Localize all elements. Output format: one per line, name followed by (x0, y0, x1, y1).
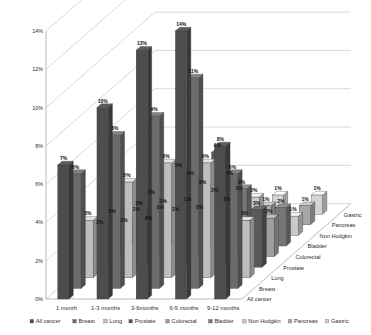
z-axis-category-5: Bladder (308, 243, 327, 249)
bar-value-label-6-0: 1% (133, 206, 141, 212)
legend-item-lung[interactable]: Lung (104, 318, 122, 324)
bar-value-label-5-2: 3% (199, 179, 207, 185)
bar-side (323, 191, 327, 214)
bar-side (108, 104, 112, 299)
x-axis-category-3: 6-9 months (169, 305, 198, 311)
legend-item-prostate[interactable]: Prostate (129, 318, 156, 324)
bar-side (250, 217, 254, 278)
bar-value-label-4-4: 2% (265, 208, 273, 214)
legend-item-colorectal[interactable]: Colorectal (166, 318, 197, 324)
y-axis-tick-6: 12% (32, 66, 43, 72)
bar-value-label-2-0: 3% (84, 210, 92, 216)
legend-item-gastric[interactable]: Gastric (325, 318, 349, 324)
bar-side (310, 202, 314, 225)
bar-value-label-2-1: 5% (123, 172, 131, 178)
bar-value-label-7-1: 1% (184, 196, 192, 202)
bar-side (147, 46, 151, 299)
bar-value-label-7-4: 1% (301, 196, 309, 202)
bar-side (298, 213, 302, 236)
bar-all-cancer-1[interactable] (97, 104, 113, 299)
legend-label: Prostate (135, 318, 156, 324)
bar-value-label-8-0: 0% (157, 204, 165, 210)
bar-value-label-1-0: 6% (72, 164, 80, 170)
z-axis-category-3: Prostate (283, 265, 304, 271)
bar-value-label-0-1: 10% (98, 98, 109, 104)
bar-value-label-3-3: 6% (214, 142, 222, 148)
bar-value-label-3-1: 3% (135, 200, 143, 206)
bar-value-label-1-3: 11% (188, 68, 198, 74)
bar-value-label-4-1: 3% (148, 189, 156, 195)
y-axis-tick-5: 10% (32, 105, 43, 111)
three-d-bar-chart: 0%2%4%6%8%10%12%14%0%0%1%1%1%0%1%1%1%1%1… (0, 0, 371, 335)
bar-value-label-7-3: 1% (262, 196, 270, 202)
legend: All cancerBreastLungProstateColorectalBl… (30, 318, 349, 324)
legend-item-all-cancer[interactable]: All cancer (30, 318, 60, 324)
bar-value-label-2-4: 3% (241, 210, 249, 216)
bar-value-label-0-3: 14% (176, 21, 187, 27)
legend-label: All cancer (36, 318, 61, 324)
legend-swatch (325, 319, 329, 323)
bar-value-label-8-2: 1% (235, 185, 243, 191)
legend-label: Lung (110, 318, 122, 324)
bar-side (81, 170, 85, 289)
y-axis-tick-1: 2% (35, 258, 43, 264)
z-axis-category-2: Lung (271, 275, 283, 281)
z-axis-category-1: Breast (259, 286, 276, 292)
bar-value-label-3-2: 5% (175, 162, 183, 168)
bar-value-label-8-1: 0% (196, 204, 204, 210)
bar-value-label-8-3: 1% (274, 185, 282, 191)
bar-side (69, 161, 73, 299)
bar-side (120, 132, 124, 289)
bar-face (215, 146, 226, 299)
bar-all-cancer-4[interactable] (215, 142, 231, 299)
z-axis-category-8: Gastric (344, 212, 362, 218)
bar-value-label-4-2: 4% (187, 170, 195, 176)
legend-swatch (209, 319, 213, 323)
bar-value-label-5-0: 1% (120, 217, 128, 223)
bar-value-label-1-1: 8% (111, 125, 119, 131)
bar-value-label-1-4: 6% (229, 164, 237, 170)
legend-label: Pancreas (294, 318, 318, 324)
bar-value-label-0-0: 7% (60, 155, 68, 161)
bar-value-label-5-3: 3% (238, 179, 246, 185)
y-axis-tick-0: 0% (35, 296, 43, 302)
legend-swatch (104, 319, 108, 323)
bar-value-label-7-2: 1% (223, 196, 231, 202)
legend-label: Breast (79, 318, 96, 324)
x-axis-category-1: 1-3 months (91, 305, 120, 311)
legend-item-non-hodgkin[interactable]: Non Hodgkin (243, 318, 281, 324)
bar-face (97, 108, 108, 299)
bar-side (274, 215, 278, 257)
legend-item-pancreas[interactable]: Pancreas (288, 318, 318, 324)
bar-value-label-6-3: 2% (250, 187, 258, 193)
x-axis-category-2: 3-6months (131, 305, 158, 311)
bar-value-label-1-2: 9% (150, 106, 158, 112)
bar-value-label-6-1: 1% (172, 206, 180, 212)
legend-swatch (166, 319, 170, 323)
bar-value-label-0-2: 13% (137, 40, 148, 46)
bar-face (136, 50, 147, 299)
bar-value-label-8-4: 1% (314, 185, 322, 191)
legend-item-bladder[interactable]: Bladder (209, 318, 234, 324)
bar-value-label-0-4: 8% (217, 136, 225, 142)
bar-value-label-2-3: 6% (202, 153, 210, 159)
bar-value-label-5-1: 2% (160, 198, 168, 204)
legend-item-breast[interactable]: Breast (73, 318, 95, 324)
legend-swatch (30, 319, 34, 323)
legend-label: Bladder (214, 318, 233, 324)
chart-canvas: 0%2%4%6%8%10%12%14%0%0%1%1%1%0%1%1%1%1%1… (0, 0, 371, 335)
y-axis-tick-7: 14% (32, 28, 43, 34)
bar-value-label-4-0: 2% (108, 208, 116, 214)
x-axis-category-0: 1 month (56, 305, 77, 311)
bar-value-label-2-2: 6% (163, 153, 171, 159)
legend-swatch (288, 319, 292, 323)
legend-swatch (129, 319, 133, 323)
legend-swatch (73, 319, 77, 323)
legend-label: Non Hodgkin (248, 318, 280, 324)
bar-face (58, 165, 69, 299)
bar-all-cancer-2[interactable] (136, 46, 152, 299)
bar-all-cancer-0[interactable] (58, 161, 74, 299)
legend-swatch (243, 319, 247, 323)
z-axis-category-4: Colorectal (295, 254, 320, 260)
bar-value-label-6-2: 2% (211, 187, 219, 193)
